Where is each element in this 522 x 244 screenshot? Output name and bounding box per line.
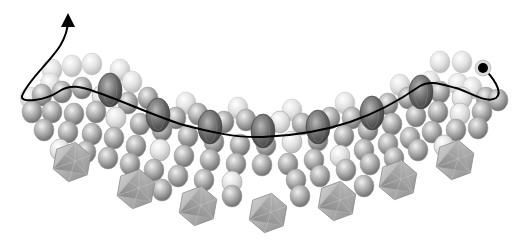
sphere: [22, 101, 42, 123]
sphere: [150, 139, 170, 161]
dark-ellipsoid: [98, 73, 122, 107]
start-point-marker: [478, 63, 488, 73]
icosahedron: [436, 140, 474, 179]
sphere: [174, 145, 194, 167]
dark-ellipsoid: [198, 110, 222, 144]
sphere: [222, 185, 242, 207]
diagram-figure: [0, 0, 522, 244]
sphere: [310, 165, 330, 187]
sphere: [382, 113, 402, 135]
icosahedron: [179, 186, 217, 225]
sphere: [428, 101, 448, 123]
sphere: [336, 159, 356, 181]
light-sphere: [82, 53, 102, 75]
light-sphere: [430, 51, 450, 73]
sphere: [290, 185, 310, 207]
icosahedron: [249, 193, 287, 232]
sphere: [360, 153, 380, 175]
sphere: [104, 127, 124, 149]
molecular-assembly-diagram: [0, 0, 522, 244]
sphere: [86, 101, 106, 123]
light-sphere: [122, 71, 142, 93]
light-sphere: [62, 55, 82, 77]
sphere: [408, 139, 428, 161]
sphere: [168, 165, 188, 187]
sphere: [468, 117, 488, 139]
sphere: [354, 175, 374, 197]
sphere: [34, 119, 54, 141]
sphere: [252, 154, 272, 176]
sphere: [106, 107, 126, 129]
sphere: [200, 149, 220, 171]
dark-ellipsoid: [306, 110, 330, 144]
sphere: [98, 147, 118, 169]
sphere: [52, 81, 72, 103]
light-sphere: [452, 51, 472, 73]
icosahedron: [379, 160, 417, 199]
dark-ellipsoid: [251, 114, 275, 148]
sphere: [334, 125, 354, 147]
icosahedron: [318, 181, 356, 220]
